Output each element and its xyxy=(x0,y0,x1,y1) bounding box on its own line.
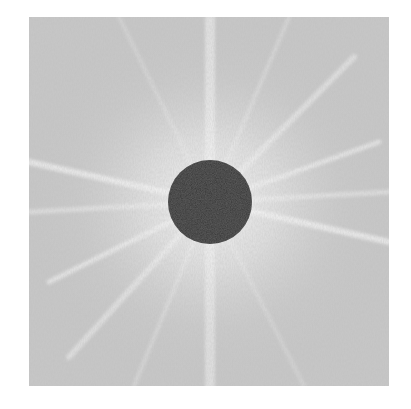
dc-component-mask xyxy=(168,160,252,244)
spectrum-graphic xyxy=(29,17,389,386)
fourier-spectrum-image xyxy=(29,17,389,386)
image-canvas xyxy=(0,0,411,409)
